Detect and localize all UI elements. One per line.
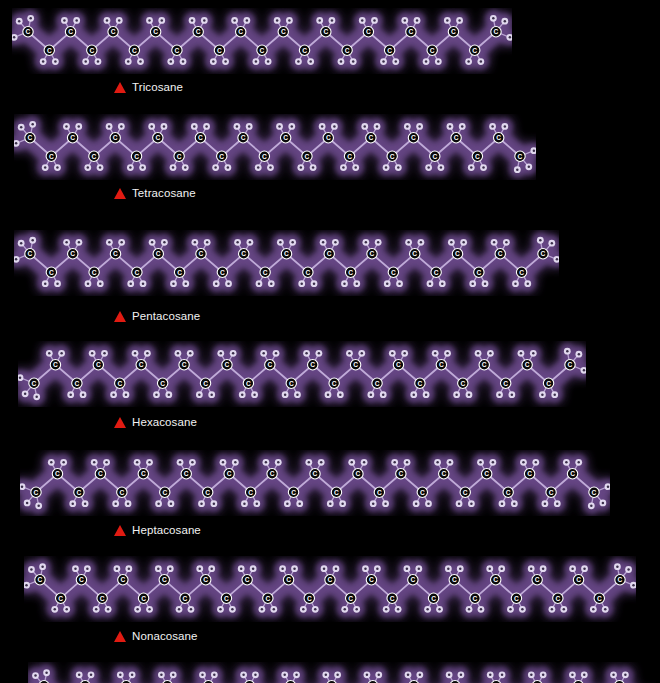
carbon-atom-label: C — [334, 489, 339, 496]
carbon-atom-label: C — [113, 134, 118, 141]
hydrogen-atom-core — [470, 166, 473, 169]
carbon-atom-label: C — [68, 28, 73, 35]
hydrogen-atom-core — [612, 674, 615, 677]
hydrogen-atom-core — [489, 674, 492, 677]
hydrogen-atom-core — [413, 393, 416, 396]
hydrogen-atom-core — [240, 567, 243, 570]
hydrogen-atom-core — [170, 60, 173, 63]
hydrogen-atom-core — [87, 166, 90, 169]
molecule-row: CCCCCCCCCCCCCCCCCCCCCCCCC — [0, 230, 660, 296]
hydrogen-atom-core — [213, 502, 216, 505]
hydrogen-atom-core — [134, 352, 137, 355]
carbon-atom-label: C — [409, 28, 414, 35]
carbon-atom-label: C — [434, 269, 439, 276]
hydrogen-atom-core — [461, 125, 464, 128]
hydrogen-atom-core — [160, 674, 163, 677]
molecule-glow — [27, 567, 634, 610]
hydrogen-atom-core — [397, 166, 400, 169]
carbon-atom-label: C — [286, 576, 291, 583]
hydrogen-atom-core — [77, 125, 80, 128]
hydrogen-atom-core — [18, 20, 21, 23]
molecule-legend-item[interactable]: Hexacosane — [114, 417, 197, 429]
hydrogen-atom-core — [348, 352, 351, 355]
hydrogen-atom-core — [29, 17, 32, 20]
molecule-legend-item[interactable]: Nonacosane — [114, 631, 198, 643]
hydrogen-atom-core — [172, 282, 175, 285]
carbon-atom-label: C — [310, 361, 315, 368]
carbon-atom-label: C — [452, 576, 457, 583]
hydrogen-atom-core — [283, 674, 286, 677]
molecule-legend-item[interactable]: Tetracosane — [114, 188, 196, 200]
hydrogen-atom-core — [450, 241, 453, 244]
hydrogen-atom-core — [148, 19, 151, 22]
carbon-atom-label: C — [460, 380, 465, 387]
hydrogen-atom-core — [376, 125, 379, 128]
hydrogen-atom-core — [513, 502, 516, 505]
carbon-atom-label: C — [100, 595, 105, 602]
carbon-atom-label: C — [141, 470, 146, 477]
hydrogen-atom-core — [334, 241, 337, 244]
hydrogen-atom-core — [571, 567, 574, 570]
hydrogen-atom-core — [341, 502, 344, 505]
hydrogen-atom-core — [241, 393, 244, 396]
carbon-atom-label: C — [313, 470, 318, 477]
molecule-legend-item[interactable]: Heptacosane — [114, 525, 201, 537]
carbon-atom-label: C — [326, 134, 331, 141]
carbon-atom-label: C — [366, 28, 371, 35]
hydrogen-atom-core — [404, 19, 407, 22]
hydrogen-atom-core — [340, 60, 343, 63]
hydrogen-atom-core — [305, 352, 308, 355]
hydrogen-atom-core — [403, 352, 406, 355]
hydrogen-atom-core — [129, 166, 132, 169]
hydrogen-atom-core — [385, 166, 388, 169]
hydrogen-atom-core — [318, 352, 321, 355]
hydrogen-atom-core — [35, 396, 38, 399]
carbon-atom-label: C — [518, 153, 523, 160]
carbon-atom-label: C — [375, 380, 380, 387]
hydrogen-atom-core — [447, 567, 450, 570]
hydrogen-atom-core — [105, 461, 108, 464]
hydrogen-atom-core — [243, 502, 246, 505]
hydrogen-atom-core — [339, 393, 342, 396]
hydrogen-atom-core — [213, 674, 216, 677]
carbon-atom-label: C — [476, 269, 481, 276]
hydrogen-atom-core — [65, 125, 68, 128]
hydrogen-atom-core — [84, 502, 87, 505]
hydrogen-atom-core — [286, 502, 289, 505]
hydrogen-atom-core — [426, 608, 429, 611]
carbon-atom-label: C — [184, 470, 189, 477]
hydrogen-atom-core — [437, 60, 440, 63]
carbon-atom-label: C — [398, 470, 403, 477]
hydrogen-atom-core — [148, 461, 151, 464]
carbon-atom-label: C — [472, 47, 477, 54]
hydrogen-atom-core — [429, 282, 432, 285]
hydrogen-atom-core — [312, 166, 315, 169]
carbon-atom-label: C — [47, 47, 52, 54]
hydrogen-atom-core — [528, 166, 531, 169]
carbon-atom-label: C — [353, 361, 358, 368]
molecule-structure: CCCCCCCCCCCCCCCCCCCCCCCCCCCCCC — [28, 662, 656, 683]
carbon-atom-label: C — [220, 269, 225, 276]
carbon-atom-label: C — [535, 576, 540, 583]
hydrogen-atom-core — [13, 36, 16, 39]
hydrogen-atom-core — [530, 674, 533, 677]
hydrogen-atom-core — [65, 608, 68, 611]
molecule-legend-item[interactable]: Pentacosane — [114, 311, 200, 323]
hydrogen-atom-core — [233, 19, 236, 22]
carbon-atom-label: C — [418, 380, 423, 387]
carbon-atom-label: C — [162, 576, 167, 583]
hydrogen-atom-core — [542, 567, 545, 570]
hydrogen-atom-core — [87, 282, 90, 285]
carbon-atom-label: C — [441, 470, 446, 477]
hydrogen-atom-core — [406, 567, 409, 570]
hydrogen-atom-core — [321, 125, 324, 128]
hydrogen-atom-core — [533, 149, 536, 152]
carbon-atom-label: C — [345, 47, 350, 54]
carbon-atom-label: C — [305, 153, 310, 160]
hydrogen-atom-core — [44, 282, 47, 285]
hydrogen-atom-core — [504, 20, 507, 23]
molecule-legend-item[interactable]: Tricosane — [114, 82, 183, 94]
hydrogen-atom-core — [556, 258, 559, 261]
carbon-atom-label: C — [120, 576, 125, 583]
carbon-atom-label: C — [58, 595, 63, 602]
